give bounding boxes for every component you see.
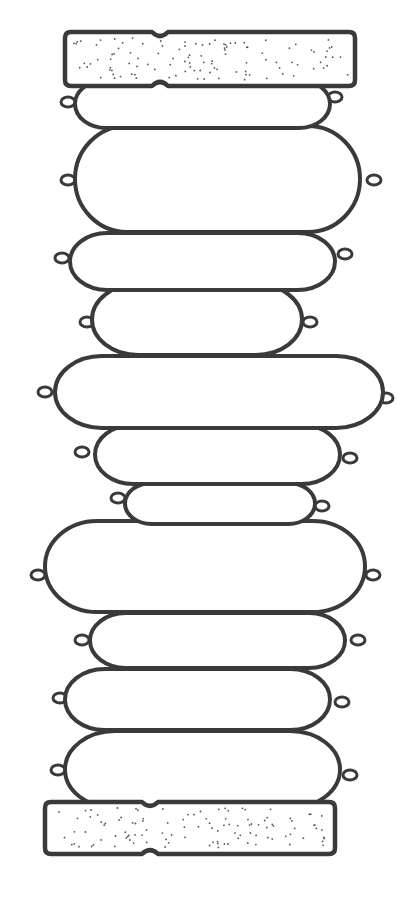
- crumb-dot: [114, 77, 116, 79]
- crumb-dot: [271, 824, 273, 826]
- crumb-dot: [228, 824, 230, 826]
- crumb-dot: [217, 830, 219, 832]
- crumb-dot: [76, 41, 78, 43]
- crumb-dot: [209, 845, 211, 847]
- crumb-dot: [217, 843, 219, 845]
- crumb-dot: [184, 826, 186, 828]
- crumb-dot: [250, 832, 252, 834]
- crumb-dot: [266, 827, 268, 829]
- crumb-dot: [289, 844, 291, 846]
- crumb-dot: [104, 823, 106, 825]
- crumb-dot: [261, 52, 263, 54]
- crumb-dot: [142, 818, 144, 820]
- crumb-dot: [218, 808, 220, 810]
- crumb-dot: [120, 817, 122, 819]
- sausage-tie-icon: [55, 253, 69, 263]
- crumb-dot: [211, 63, 213, 65]
- crumb-dot: [172, 58, 174, 60]
- crumb-dot: [244, 809, 246, 811]
- crumb-dot: [214, 67, 216, 69]
- crumb-dot: [115, 835, 117, 837]
- crumb-dot: [118, 819, 120, 821]
- crumb-dot: [78, 846, 80, 848]
- crumb-dot: [209, 43, 211, 45]
- sausage: [55, 233, 352, 290]
- crumb-dot: [137, 809, 139, 811]
- sausage-sandwich-illustration: [0, 0, 411, 914]
- crumb-dot: [100, 839, 102, 841]
- bread-bottom-slice: [45, 802, 335, 854]
- sausage-tie-icon: [338, 249, 352, 259]
- sausage-tie-icon: [367, 175, 381, 185]
- sausage-tie-icon: [61, 175, 75, 185]
- crumb-dot: [168, 842, 170, 844]
- crumb-dot: [321, 829, 323, 831]
- crumb-dot: [265, 39, 267, 41]
- crumb-dot: [182, 819, 184, 821]
- crumb-dot: [137, 58, 139, 60]
- crumb-dot: [289, 47, 291, 49]
- crumb-dot: [135, 823, 137, 825]
- crumb-dot: [74, 831, 76, 833]
- sausage-tie-icon: [61, 97, 75, 107]
- crumb-dot: [249, 824, 251, 826]
- sausage: [51, 731, 357, 808]
- crumb-dot: [321, 815, 323, 817]
- crumb-dot: [100, 39, 102, 41]
- crumb-dot: [315, 828, 317, 830]
- crumb-dot: [243, 42, 245, 44]
- crumb-dot: [218, 78, 220, 80]
- crumb-dot: [295, 43, 297, 45]
- crumb-dot: [218, 847, 220, 849]
- crumb-dot: [276, 62, 278, 64]
- crumb-dot: [225, 44, 227, 46]
- crumb-dot: [303, 837, 305, 839]
- sausage-tie-icon: [75, 447, 89, 457]
- crumb-dot: [73, 843, 75, 845]
- crumb-dot: [212, 841, 214, 843]
- crumb-dot: [200, 811, 202, 813]
- crumb-dot: [291, 61, 293, 63]
- crumb-dot: [111, 70, 113, 72]
- crumb-dot: [214, 39, 216, 41]
- crumb-dot: [246, 46, 248, 48]
- crumb-dot: [103, 824, 105, 826]
- sausage: [53, 669, 349, 730]
- crumb-dot: [112, 74, 114, 76]
- crumb-dot: [171, 834, 173, 836]
- crumb-dot: [147, 64, 149, 66]
- crumb-dot: [195, 43, 197, 45]
- crumb-dot: [175, 75, 177, 77]
- crumb-dot: [326, 50, 328, 52]
- crumb-dot: [135, 77, 137, 79]
- sausage-tie-icon: [38, 387, 52, 397]
- sausage-tie-icon: [111, 493, 125, 503]
- crumb-dot: [239, 834, 241, 836]
- crumb-dot: [109, 69, 111, 71]
- crumb-dot: [225, 53, 227, 55]
- crumb-dot: [227, 810, 229, 812]
- crumb-dot: [113, 53, 115, 55]
- crumb-dot: [255, 835, 257, 837]
- crumb-dot: [128, 63, 130, 65]
- crumb-dot: [197, 78, 199, 80]
- crumb-dot: [325, 56, 327, 58]
- crumb-dot: [311, 49, 313, 51]
- crumb-dot: [100, 77, 102, 79]
- sausage: [111, 483, 329, 524]
- crumb-dot: [90, 809, 92, 811]
- crumb-dot: [223, 43, 225, 45]
- crumb-dot: [203, 62, 205, 64]
- crumb-dot: [211, 60, 213, 62]
- crumb-dot: [162, 45, 164, 47]
- crumb-dot: [64, 837, 66, 839]
- crumb-dot: [285, 835, 287, 837]
- crumb-dot: [168, 77, 170, 79]
- crumb-dot: [58, 811, 60, 813]
- crumb-dot: [165, 839, 167, 841]
- crumb-dot: [111, 54, 113, 56]
- crumb-dot: [297, 64, 299, 66]
- crumb-dot: [242, 807, 244, 809]
- crumb-dot: [127, 836, 129, 838]
- crumb-dot: [133, 842, 135, 844]
